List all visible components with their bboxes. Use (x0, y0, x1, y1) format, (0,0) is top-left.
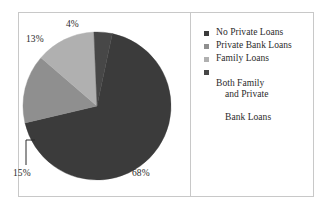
pie-label-4: 4% (66, 19, 79, 29)
legend-swatch-icon (204, 57, 209, 62)
legend-list: No Private Loans Private Bank Loans Fami… (204, 27, 312, 137)
legend-panel: No Private Loans Private Bank Loans Fami… (191, 13, 314, 197)
pie-panel: 4% 13% 15% 68% (19, 13, 190, 197)
legend-swatch-icon (204, 44, 209, 49)
pie-label-15: 15% (13, 168, 31, 178)
pie-label-13: 13% (26, 34, 44, 44)
legend-label: Both Family and Private Bank Loans (216, 66, 271, 135)
legend-label-line-1: Both Family (216, 78, 264, 88)
pie-graphic (19, 13, 190, 197)
legend-item-both-family-and-private-bank-loans: Both Family and Private Bank Loans (204, 66, 312, 135)
legend-item-family-loans: Family Loans (204, 53, 312, 65)
legend-label: No Private Loans (216, 27, 283, 39)
legend-label-line-3: Bank Loans (216, 112, 271, 124)
pie-label-68: 68% (132, 168, 150, 178)
legend-item-private-bank-loans: Private Bank Loans (204, 40, 312, 52)
legend-swatch-icon (204, 70, 209, 75)
pie-chart-figure: 4% 13% 15% 68% No Private Loans Private … (0, 0, 327, 215)
legend-swatch-icon (204, 31, 209, 36)
pie-slices (23, 32, 171, 180)
legend-label-line-2: and Private (216, 89, 271, 101)
legend-label: Family Loans (216, 53, 269, 65)
legend-label: Private Bank Loans (216, 40, 292, 52)
legend-item-no-private-loans: No Private Loans (204, 27, 312, 39)
